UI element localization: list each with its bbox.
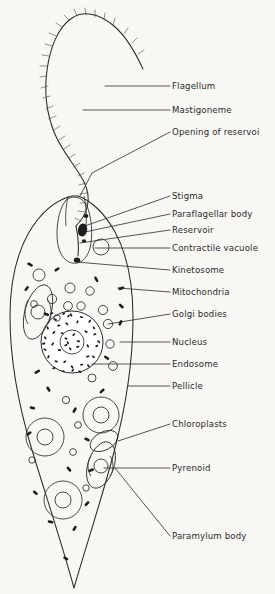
flagellum-group — [40, 8, 144, 226]
figure-page: Flagellum Mastigoneme Opening of reservo… — [0, 0, 275, 594]
chloroplast-edge-band — [25, 300, 28, 324]
label-nucleus: Nucleus — [172, 337, 208, 347]
mitochondrion — [34, 369, 41, 374]
mitochondrion — [72, 525, 77, 531]
label-chloroplasts: Chloroplasts — [172, 419, 227, 429]
mitochondria-group — [24, 262, 125, 561]
mitochondrion — [84, 501, 90, 507]
label-contractile-vacuole: Contractile vacuole — [172, 243, 258, 253]
golgi-body — [65, 283, 75, 293]
mitochondrion — [118, 303, 124, 309]
golgi-body — [109, 362, 118, 371]
golgi-body — [88, 374, 96, 382]
golgi-body — [33, 269, 45, 281]
label-mastigoneme: Mastigoneme — [172, 105, 232, 115]
label-golgi-bodies: Golgi bodies — [172, 309, 227, 319]
golgi-group — [29, 269, 118, 491]
chloroplast-edge-band-3 — [88, 456, 91, 476]
golgi-body — [77, 302, 85, 310]
label-stigma: Stigma — [172, 191, 203, 201]
leader-line — [85, 214, 170, 232]
golgi-body — [86, 287, 94, 295]
golgi-body — [64, 302, 73, 311]
mitochondrion — [99, 388, 105, 394]
golgi-body — [62, 396, 69, 403]
golgi-body — [83, 485, 89, 491]
leader-line — [108, 314, 170, 324]
mitochondrion — [47, 520, 53, 524]
golgi-body — [106, 340, 114, 348]
chloroplast-shape — [44, 481, 82, 519]
chloroplast-shape — [83, 397, 119, 433]
leader-line — [82, 196, 170, 227]
mitochondrion — [29, 406, 35, 410]
pyrenoid-shape — [94, 459, 108, 473]
mitochondrion — [24, 286, 29, 292]
flagellum-path — [46, 14, 143, 226]
pellicle-outline — [10, 196, 133, 588]
golgi-body — [98, 305, 107, 314]
label-endosome: Endosome — [172, 359, 218, 369]
pyrenoid-shape — [55, 492, 71, 508]
label-reservoir: Reservoir — [172, 225, 214, 235]
label-paraflagellar-body: Paraflagellar body — [172, 209, 253, 219]
pyrenoid-shape — [93, 407, 109, 423]
golgi-body — [75, 422, 82, 429]
mitochondrion — [94, 276, 99, 283]
golgi-body — [70, 449, 77, 456]
mitochondrion — [84, 437, 90, 442]
leader-lines — [76, 86, 170, 536]
label-group: Flagellum Mastigoneme Opening of reservo… — [76, 81, 260, 541]
mastigoneme-group — [40, 8, 144, 221]
pyrenoid-shape — [37, 429, 53, 445]
leader-line — [115, 468, 170, 536]
golgi-body — [29, 457, 35, 463]
leader-line — [80, 132, 170, 196]
label-flagellum: Flagellum — [172, 81, 215, 91]
chloroplast-shape — [81, 438, 121, 492]
euglena-diagram: Flagellum Mastigoneme Opening of reservo… — [0, 0, 275, 594]
leader-line — [118, 424, 170, 441]
mitochondrion — [27, 262, 34, 267]
leader-line — [80, 230, 170, 243]
contractile-vacuole-shape — [93, 239, 109, 255]
label-paramylum-body: Paramylum body — [172, 531, 247, 541]
label-pyrenoid: Pyrenoid — [172, 463, 211, 473]
mitochondrion — [118, 320, 123, 327]
leader-line — [118, 288, 170, 292]
label-pellicle: Pellicle — [172, 381, 203, 391]
leader-line — [76, 262, 170, 270]
mitochondrion — [88, 468, 94, 473]
mitochondrion — [32, 490, 38, 496]
cell-body-group — [10, 196, 133, 588]
mitochondrion — [72, 407, 77, 413]
reservoir-opening-right — [84, 196, 86, 226]
mitochondrion — [104, 355, 110, 360]
mitochondrion — [46, 386, 51, 392]
mitochondrion — [54, 267, 60, 272]
mitochondrion — [66, 466, 72, 472]
chloroplast-shape — [26, 418, 64, 456]
label-kinetosome: Kinetosome — [172, 265, 224, 275]
paraflagellar-body-shape — [84, 214, 89, 218]
label-opening-of-reservoir: Opening of reservoi — [172, 127, 260, 137]
label-mitochondria: Mitochondria — [172, 287, 230, 297]
